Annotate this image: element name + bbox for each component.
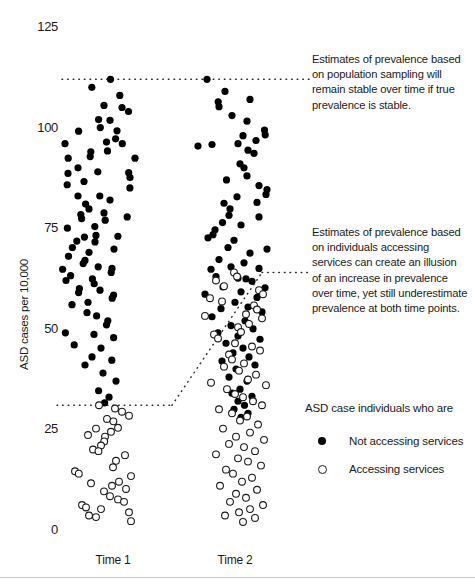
scatter-point-accessing <box>98 506 105 513</box>
scatter-point-not-accessing <box>99 369 106 376</box>
scatter-point-accessing <box>246 321 253 328</box>
scatter-point-not-accessing <box>239 132 246 139</box>
scatter-point-accessing <box>112 405 119 412</box>
scatter-point-not-accessing <box>97 124 104 131</box>
scatter-point-accessing <box>244 413 251 420</box>
scatter-point-not-accessing <box>74 192 81 199</box>
scatter-point-not-accessing <box>224 244 231 251</box>
scatter-point-accessing <box>253 371 260 378</box>
scatter-point-accessing <box>123 486 130 493</box>
scatter-point-accessing <box>240 394 247 401</box>
scatter-point-accessing <box>126 509 133 516</box>
scatter-point-not-accessing <box>225 373 232 380</box>
scatter-point-accessing <box>259 402 266 409</box>
scatter-point-not-accessing <box>204 234 211 241</box>
scatter-point-accessing <box>254 486 261 493</box>
scatter-point-accessing <box>116 478 123 485</box>
scatter-point-accessing <box>122 452 129 459</box>
scatter-point-not-accessing <box>62 277 69 284</box>
scatter-point-accessing <box>93 425 100 432</box>
scatter-point-not-accessing <box>194 143 201 150</box>
scatter-point-accessing <box>223 466 230 473</box>
scatter-point-not-accessing <box>91 280 98 287</box>
scatter-point-not-accessing <box>246 250 253 257</box>
legend-item-not-accessing[interactable]: Not accessing services <box>305 427 463 455</box>
scatter-point-not-accessing <box>227 322 234 329</box>
scatter-point-accessing <box>107 493 114 500</box>
annotation-services-illusion: Estimates of prevalence based on individ… <box>312 225 475 316</box>
scatter-point-accessing <box>229 356 236 363</box>
annotation-1-line-4: prevalence is stable. <box>312 98 472 113</box>
scatter-point-not-accessing <box>220 200 227 207</box>
filled-circle-icon <box>305 437 339 445</box>
scatter-point-accessing <box>221 363 228 370</box>
scatter-point-not-accessing <box>221 88 228 95</box>
scatter-point-not-accessing <box>112 135 119 142</box>
scatter-point-not-accessing <box>114 233 121 240</box>
legend-item-accessing[interactable]: Accessing services <box>305 455 463 483</box>
scatter-point-not-accessing <box>110 334 117 341</box>
scatter-point-accessing <box>257 347 264 354</box>
scatter-point-accessing <box>207 295 214 302</box>
scatter-point-not-accessing <box>217 305 224 312</box>
scatter-point-accessing <box>119 408 126 415</box>
scatter-point-accessing <box>252 448 259 455</box>
annotation-2-line-1: Estimates of prevalence based <box>312 225 475 240</box>
scatter-point-accessing <box>237 417 244 424</box>
scatter-point-accessing <box>240 519 247 526</box>
scatter-point-accessing <box>110 464 117 471</box>
scatter-point-not-accessing <box>262 191 269 198</box>
scatter-point-not-accessing <box>61 140 68 147</box>
scatter-point-not-accessing <box>116 92 123 99</box>
scatter-point-not-accessing <box>93 312 100 319</box>
scatter-point-accessing <box>85 432 92 439</box>
scatter-point-not-accessing <box>64 225 71 232</box>
scatter-point-not-accessing <box>252 137 259 144</box>
scatter-point-not-accessing <box>81 361 88 368</box>
scatter-point-accessing <box>233 490 240 497</box>
scatter-point-not-accessing <box>103 321 110 328</box>
scatter-point-not-accessing <box>239 345 246 352</box>
scatter-point-not-accessing <box>223 176 230 183</box>
annotation-2-line-2: on individuals accessing <box>312 240 475 255</box>
legend-title: ASD case individuals who are <box>305 402 463 414</box>
scatter-point-not-accessing <box>92 232 99 239</box>
scatter-point-accessing <box>252 515 259 522</box>
scatter-point-accessing <box>241 444 248 451</box>
scatter-point-not-accessing <box>109 295 116 302</box>
scatter-point-accessing <box>263 382 270 389</box>
scatter-point-accessing <box>230 470 237 477</box>
annotation-2-line-5: over time, yet still underestimate <box>312 286 475 301</box>
scatter-point-not-accessing <box>207 266 214 273</box>
scatter-point-not-accessing <box>126 174 133 181</box>
scatter-point-not-accessing <box>81 233 88 240</box>
scatter-point-not-accessing <box>75 289 82 296</box>
scatter-point-accessing <box>86 512 93 519</box>
scatter-point-accessing <box>93 514 100 521</box>
scatter-point-accessing <box>83 504 90 511</box>
scatter-point-not-accessing <box>88 353 95 360</box>
scatter-point-not-accessing <box>262 131 269 138</box>
scatter-point-not-accessing <box>69 244 76 251</box>
scatter-point-not-accessing <box>97 345 104 352</box>
scatter-point-accessing <box>260 291 267 298</box>
annotation-2-line-3: services can create an illusion <box>312 255 475 270</box>
scatter-point-not-accessing <box>88 84 95 91</box>
scatter-point-not-accessing <box>119 140 126 147</box>
scatter-point-accessing <box>221 283 228 290</box>
scatter-point-not-accessing <box>240 259 247 266</box>
scatter-point-accessing <box>213 277 220 284</box>
scatter-point-not-accessing <box>255 265 262 272</box>
scatter-point-accessing <box>110 418 117 425</box>
scatter-point-accessing <box>95 448 102 455</box>
scatter-point-not-accessing <box>245 353 252 360</box>
scatter-point-not-accessing <box>85 205 92 212</box>
scatter-point-accessing <box>217 482 224 489</box>
scatter-point-not-accessing <box>237 288 244 295</box>
scatter-points-group <box>59 76 271 526</box>
scatter-point-not-accessing <box>102 217 109 224</box>
scatter-point-not-accessing <box>95 116 102 123</box>
scatter-point-not-accessing <box>226 205 233 212</box>
scatter-point-accessing <box>254 306 261 313</box>
scatter-point-not-accessing <box>215 256 222 263</box>
